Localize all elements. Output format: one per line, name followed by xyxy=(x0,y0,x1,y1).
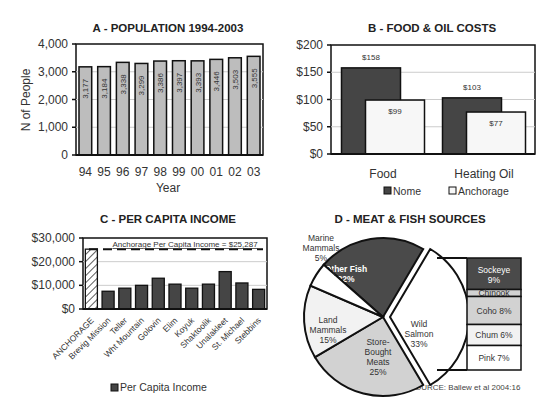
chart-c-bar xyxy=(169,284,181,309)
chart-a-xtick-label: 98 xyxy=(153,165,167,179)
chart-c-bar xyxy=(202,284,214,309)
chart-c-ytick-label: $0 xyxy=(62,302,76,316)
chart-a-population: A - POPULATION 1994-2003 N of People Yea… xyxy=(19,22,263,195)
chart-b-ytick-label: $200 xyxy=(296,38,323,52)
chart-a-data-label: 3,555 xyxy=(250,68,259,89)
chart-b-food-oil-costs: B - FOOD & OIL COSTS $0$50$100$150$200$1… xyxy=(296,22,535,197)
chart-a-ytick-label: 1,000 xyxy=(38,120,68,134)
chart-d-breakdown-label: Pink 7% xyxy=(478,353,510,363)
chart-a-ylabel: N of People xyxy=(19,68,33,131)
chart-b-legend-swatch xyxy=(449,187,456,194)
chart-a-xtick-label: 01 xyxy=(210,165,224,179)
chart-a-data-label: 3,393 xyxy=(194,72,203,93)
chart-a-ytick-label: 4,000 xyxy=(38,37,68,51)
chart-a-xtick-label: 95 xyxy=(97,165,111,179)
chart-a-ytick-label: 3,000 xyxy=(38,65,68,79)
chart-b-ytick-label: $50 xyxy=(303,120,323,134)
chart-d-slice-label: Store- xyxy=(366,337,389,347)
chart-c-bar xyxy=(219,272,231,309)
chart-b-data-label: $77 xyxy=(489,119,503,128)
chart-c-bar xyxy=(102,291,114,309)
chart-a-data-label: 3,386 xyxy=(156,72,165,93)
chart-b-data-label: $158 xyxy=(362,53,380,62)
chart-d-slice-label: Salmon xyxy=(405,329,434,339)
chart-a-xtick-label: 96 xyxy=(116,165,130,179)
chart-d-slice-label: 33% xyxy=(410,339,427,349)
chart-d-slice-label: Land xyxy=(319,315,338,325)
chart-d-slice-label: Meats xyxy=(366,357,389,367)
chart-c-ytick-label: $10,000 xyxy=(32,278,76,292)
chart-a-xtick-label: 03 xyxy=(247,165,261,179)
chart-d-breakdown-label: Coho 8% xyxy=(477,306,512,316)
chart-c-ytick-label: $30,000 xyxy=(32,231,76,245)
chart-d-meat-fish-sources: D - MEAT & FISH SOURCES SOURCE: Ballew e… xyxy=(303,213,521,396)
chart-a-data-label: 3,184 xyxy=(100,78,109,99)
chart-a-xtick-label: 94 xyxy=(79,165,93,179)
chart-c-per-capita-income: C - PER CAPITA INCOME $0$10,000$20,000$3… xyxy=(32,213,267,393)
chart-b-title: B - FOOD & OIL COSTS xyxy=(368,22,497,34)
chart-d-slice-label: 25% xyxy=(369,367,386,377)
chart-b-legend-swatch xyxy=(384,187,391,194)
chart-a-xtick-label: 99 xyxy=(172,165,186,179)
chart-a-data-label: 3,446 xyxy=(212,71,221,92)
chart-d-breakdown-label: Chum 6% xyxy=(475,330,513,340)
chart-c-legend-swatch xyxy=(111,384,118,391)
chart-d-title: D - MEAT & FISH SOURCES xyxy=(334,213,486,225)
chart-a-xtick-label: 97 xyxy=(135,165,149,179)
chart-a-title: A - POPULATION 1994-2003 xyxy=(93,22,244,34)
chart-c-legend-label: Per Capita Income xyxy=(120,381,207,393)
chart-d-slice-label: 5% xyxy=(315,253,328,263)
chart-canvas: A - POPULATION 1994-2003 N of People Yea… xyxy=(0,0,553,412)
chart-d-slice-label: Mammals xyxy=(310,325,347,335)
chart-b-ytick-label: $0 xyxy=(310,147,324,161)
chart-c-title: C - PER CAPITA INCOME xyxy=(100,213,236,225)
chart-a-xlabel: Year xyxy=(156,181,180,195)
chart-c-reference-label: Anchorage Per Capita Income = $25,287 xyxy=(112,240,258,249)
chart-c-bar xyxy=(119,288,131,309)
chart-a-data-label: 3,397 xyxy=(175,72,184,93)
chart-a-xtick-label: 00 xyxy=(191,165,205,179)
chart-a-xtick-label: 02 xyxy=(228,165,242,179)
chart-d-slice-label: Mammals xyxy=(303,243,340,253)
chart-c-ytick-label: $20,000 xyxy=(32,255,76,269)
chart-b-ytick-label: $100 xyxy=(296,93,323,107)
chart-c-bar xyxy=(236,283,248,309)
chart-c-bar xyxy=(152,278,164,309)
chart-b-ytick-label: $150 xyxy=(296,65,323,79)
chart-d-slice-label: Marine xyxy=(308,233,334,243)
chart-a-ytick-label: 2,000 xyxy=(38,93,68,107)
chart-a-data-label: 3,299 xyxy=(137,75,146,96)
chart-b-data-label: $103 xyxy=(463,83,481,92)
chart-a-data-label: 3,177 xyxy=(81,78,90,99)
chart-d-breakdown-label: 9% xyxy=(488,275,501,285)
chart-a-data-label: 3,503 xyxy=(231,69,240,90)
chart-a-data-label: 3,338 xyxy=(119,74,128,95)
chart-c-bar xyxy=(253,289,265,309)
chart-c-bar-anchorage xyxy=(85,249,97,309)
chart-d-slice-label: Bought xyxy=(365,347,393,357)
chart-d-slice-label: 15% xyxy=(319,335,336,345)
chart-a-ytick-label: 0 xyxy=(61,148,68,162)
chart-d-source: SOURCE: Ballew et al 2004:16 xyxy=(410,383,521,392)
chart-b-legend-label: Anchorage xyxy=(458,185,509,197)
chart-b-xtick-label: Food xyxy=(369,167,396,181)
chart-b-xtick-label: Heating Oil xyxy=(454,167,513,181)
chart-d-breakdown-label: Sockeye xyxy=(478,265,511,275)
chart-c-bar xyxy=(136,285,148,309)
chart-b-data-label: $99 xyxy=(388,107,402,116)
chart-d-slice-label: Wild xyxy=(411,319,428,329)
chart-b-legend-label: Nome xyxy=(393,185,421,197)
chart-c-bar xyxy=(186,288,198,309)
